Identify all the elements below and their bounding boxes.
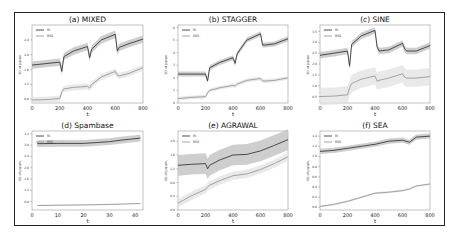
- y-tick-label: 3.0: [312, 40, 317, 44]
- y-tick-label: 2.0: [170, 139, 175, 143]
- x-tick-label: 0: [176, 212, 179, 218]
- x-tick-label: 0: [30, 105, 33, 111]
- subplot-3: (c) SINE0200400600800t0.51.01.52.02.53.0…: [306, 15, 435, 117]
- y-tick-label: 0.8: [24, 200, 29, 204]
- y-tick-label: 1.0: [312, 84, 317, 88]
- x-tick-label: 800: [283, 105, 293, 111]
- y-tick-label: 1.2: [170, 167, 175, 171]
- x-tick-label: 800: [283, 212, 293, 218]
- x-tick-label: 0: [176, 105, 179, 111]
- legend-label-rss: RSS: [193, 140, 199, 144]
- y-axis-label: SD of param.: [18, 54, 22, 75]
- y-tick-label: 5: [173, 38, 175, 42]
- y-tick-label: 3: [173, 63, 175, 67]
- y-tick-label: 1.6: [24, 177, 29, 181]
- x-tick-label: 800: [138, 105, 148, 111]
- x-tick-label: 200: [201, 212, 211, 218]
- x-tick-label: 10: [55, 212, 61, 218]
- x-tick-label: 200: [343, 212, 353, 218]
- subplot-title: (c) SINE: [360, 15, 390, 24]
- x-axis-label: t: [232, 218, 235, 224]
- x-axis-label: t: [232, 111, 235, 117]
- x-tick-label: 600: [256, 212, 266, 218]
- y-tick-label: 0.4: [170, 194, 175, 198]
- y-tick-label: 1.6: [170, 153, 175, 157]
- x-tick-label: 200: [201, 105, 211, 111]
- x-tick-label: 600: [110, 105, 120, 111]
- subplot-title: (f) SEA: [362, 121, 388, 130]
- legend-label-ri: RI: [193, 134, 196, 138]
- x-tick-label: 30: [106, 212, 112, 218]
- subplot-title: (d) Spambase: [61, 121, 114, 130]
- subplot-1: (a) MIXED0200400600800t0.81.21.62.02.4SD…: [18, 15, 148, 117]
- y-tick-label: 2.0: [312, 62, 317, 66]
- x-axis-label: t: [86, 218, 89, 224]
- y-tick-label: 1.5: [312, 73, 317, 77]
- x-tick-label: 0: [318, 212, 321, 218]
- subplot-2: (b) STAGGER0200400600800t0123456SD of pa…: [164, 15, 293, 117]
- y-tick-label: 0.6: [312, 175, 317, 179]
- x-tick-label: 600: [398, 212, 408, 218]
- y-tick-label: 0: [173, 101, 175, 105]
- y-tick-label: 1.4: [312, 134, 317, 138]
- y-tick-label: 1.2: [24, 188, 29, 192]
- x-axis-label: t: [374, 218, 377, 224]
- y-tick-label: 2.4: [24, 154, 29, 158]
- y-tick-label: 1.2: [312, 144, 317, 148]
- y-tick-label: 1: [173, 88, 175, 92]
- y-tick-label: 0.0: [312, 205, 317, 209]
- x-tick-label: 800: [425, 212, 435, 218]
- y-axis-label: SD of param.: [164, 54, 168, 75]
- subplot-5: (e) AGRAWAL0200400600800t0.00.40.81.21.6…: [164, 121, 293, 224]
- y-tick-label: 3.5: [312, 30, 317, 34]
- y-tick-label: 0.8: [170, 181, 175, 185]
- y-tick-label: 1.2: [24, 82, 29, 86]
- y-tick-label: 1.0: [312, 154, 317, 158]
- x-tick-label: 40: [132, 212, 138, 218]
- y-tick-label: 2.0: [24, 166, 29, 170]
- y-tick-label: 2: [173, 76, 175, 80]
- subplot-title: (b) STAGGER: [209, 15, 257, 24]
- subplot-title: (e) AGRAWAL: [208, 121, 258, 130]
- legend-label-rss: RSS: [193, 34, 199, 38]
- legend-label-ri: RI: [335, 134, 338, 138]
- y-tick-label: 4: [173, 51, 175, 55]
- y-tick-label: 2.0: [24, 53, 29, 57]
- y-tick-label: 2.4: [24, 38, 29, 42]
- x-axis-label: t: [86, 111, 89, 117]
- x-tick-label: 600: [398, 105, 408, 111]
- legend-label-ri: RI: [193, 28, 196, 32]
- legend-label-ri: RI: [335, 28, 338, 32]
- y-tick-label: 0.4: [312, 185, 317, 189]
- y-tick-label: 3.2: [24, 132, 29, 136]
- y-tick-label: 6: [173, 26, 175, 30]
- figure-canvas: (a) MIXED0200400600800t0.81.21.62.02.4SD…: [0, 0, 456, 238]
- y-axis-label: SD of param.: [164, 160, 168, 181]
- y-tick-label: 0.0: [170, 208, 175, 212]
- legend-label-ri: RI: [47, 134, 50, 138]
- legend-label-rss: RSS: [47, 140, 53, 144]
- y-tick-label: 1.6: [24, 68, 29, 72]
- x-tick-label: 200: [343, 105, 353, 111]
- y-tick-label: 2.5: [312, 51, 317, 55]
- legend-label-rss: RSS: [335, 140, 341, 144]
- y-axis-label: SD of param.: [306, 54, 310, 75]
- x-tick-label: 600: [256, 105, 266, 111]
- y-axis-label: SD of param.: [306, 160, 310, 181]
- x-axis-label: t: [374, 111, 377, 117]
- subplot-title: (a) MIXED: [69, 15, 106, 24]
- x-tick-label: 0: [318, 105, 321, 111]
- y-tick-label: 0.5: [312, 95, 317, 99]
- legend-label-rss: RSS: [335, 34, 341, 38]
- y-tick-label: 0.8: [312, 165, 317, 169]
- y-axis-label: SD of param.: [18, 160, 22, 181]
- legend-label-ri: RI: [47, 28, 50, 32]
- legend-label-rss: RSS: [47, 34, 53, 38]
- subplot-4: (d) Spambase010203040t0.81.21.62.02.42.8…: [18, 121, 143, 224]
- x-tick-label: 800: [425, 105, 435, 111]
- x-tick-label: 200: [55, 105, 65, 111]
- y-tick-label: 0.8: [24, 97, 29, 101]
- subplot-6: (f) SEA0200400600800t0.00.20.40.60.81.01…: [306, 121, 435, 224]
- y-tick-label: 0.2: [312, 195, 317, 199]
- x-tick-label: 0: [30, 212, 33, 218]
